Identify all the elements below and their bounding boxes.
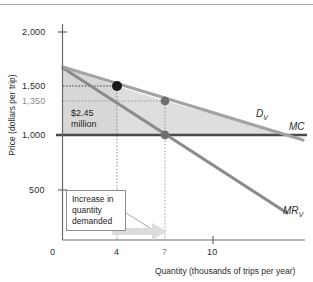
callout-line3: demanded (72, 216, 121, 227)
curve-label-marginal-cost: MC (289, 121, 305, 132)
x-tick-label-10: 10 (207, 247, 217, 257)
mr-label-text: MR (283, 205, 299, 216)
x-axis-title: Quantity (thousands of trips per year) (155, 266, 295, 276)
y-axis-title: Price (dollars per trip) (7, 60, 17, 170)
y-tick-label-1500: 1,500 (22, 81, 46, 91)
y-tick-label-500: 500 (29, 185, 45, 195)
surplus-value-line1: $2.45 (71, 108, 97, 119)
surplus-value-line2: million (71, 119, 97, 130)
curve-label-marginal-revenue: MRV (283, 205, 303, 218)
y-tick-label-2000: 2,000 (22, 27, 46, 37)
surplus-value-annotation: $2.45 million (71, 108, 97, 130)
point-price-1500 (112, 81, 122, 91)
point-mc-intersection (161, 131, 170, 140)
y-tick-label-1350: 1,350 (22, 96, 46, 106)
curve-label-demand: DV (256, 108, 268, 121)
economics-chart-figure: 2,000 1,500 1,350 1,000 500 0 4 7 10 Pri… (0, 0, 313, 282)
demand-label-subscript: V (263, 114, 268, 121)
callout-line1: Increase in (72, 194, 121, 205)
x-tick-label-4: 4 (114, 247, 119, 257)
quantity-change-callout: Increase in quantity demanded (66, 190, 126, 231)
x-tick-label-0: 0 (50, 247, 55, 257)
y-tick-label-1000: 1,000 (22, 130, 46, 140)
chart-plot-area (0, 0, 313, 282)
point-price-1350 (161, 97, 170, 106)
x-tick-label-7: 7 (162, 247, 167, 257)
callout-line2: quantity (72, 205, 121, 216)
mr-label-subscript: V (299, 211, 304, 218)
